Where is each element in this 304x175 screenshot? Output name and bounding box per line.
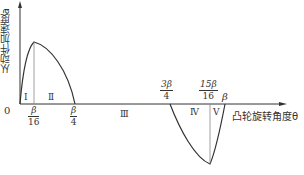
y-axis-label: 从动件加速度a — [0, 8, 12, 74]
origin-label: 0 — [4, 106, 10, 116]
tick-15beta-16: 15β 16 — [199, 80, 218, 101]
y-axis-arrow-icon — [18, 1, 22, 8]
region-3-label: Ⅲ — [120, 110, 129, 119]
region-2-label: Ⅱ — [48, 93, 54, 102]
x-axis-label: 凸轮旋转角度θ — [232, 108, 298, 123]
region-4-label: Ⅳ — [190, 108, 199, 117]
tick-beta: β — [222, 92, 228, 102]
tick-3beta-4: 3β 4 — [160, 80, 173, 101]
tick-beta-4: β 4 — [70, 106, 77, 127]
region-5-label: Ⅴ — [213, 108, 220, 117]
x-axis-arrow-icon — [279, 102, 287, 106]
tick-beta-16: β 16 — [28, 106, 39, 127]
acceleration-diagram — [0, 0, 304, 175]
region-1-label: Ⅰ — [24, 93, 28, 102]
